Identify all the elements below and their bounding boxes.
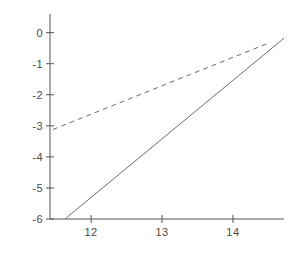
x-tick-label: 12	[85, 226, 98, 238]
chart-figure: 0-1-2-3-4-5-6 121314	[0, 0, 288, 269]
fit-lines-group	[53, 38, 284, 219]
y-tick-label: -1	[32, 58, 43, 70]
scatter-plot: 0-1-2-3-4-5-6 121314	[0, 0, 288, 269]
axes-group	[50, 14, 284, 219]
y-tick-label: -5	[32, 182, 43, 194]
fit-line-solid	[65, 38, 284, 219]
x-tick-label: 14	[226, 226, 239, 238]
x-tick-label: 13	[155, 226, 168, 238]
fit-line-dashed	[53, 43, 270, 130]
y-tick-label: 0	[36, 27, 43, 39]
y-axis-ticks: 0-1-2-3-4-5-6	[32, 27, 54, 225]
y-tick-label: -6	[32, 213, 43, 225]
x-axis-ticks: 121314	[85, 215, 240, 238]
y-tick-label: -2	[32, 89, 43, 101]
y-tick-label: -4	[32, 151, 43, 163]
y-tick-label: -3	[32, 120, 43, 132]
